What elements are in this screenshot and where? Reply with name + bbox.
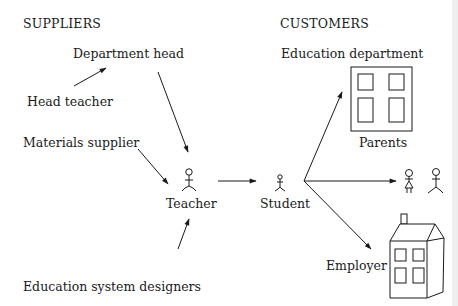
customer-employer: Employer — [326, 260, 387, 273]
arrow-materials-to-teacher — [138, 149, 168, 184]
employer-house-icon — [390, 214, 444, 298]
arrow-student-to-employer — [304, 181, 371, 249]
arrow-student-to-educationdept — [304, 92, 342, 181]
diagram-canvas: SUPPLIERS CUSTOMERS Department head Head… — [0, 0, 458, 306]
arrow-headteacher-to-depthead — [74, 68, 106, 86]
supplier-education-system-designers: Education system designers — [23, 281, 201, 294]
arrow-designers-to-teacher — [178, 219, 189, 249]
supplier-materials-supplier: Materials supplier — [23, 137, 139, 150]
student-label: Student — [260, 198, 310, 211]
teacher-label: Teacher — [166, 198, 217, 211]
supplier-head-teacher: Head teacher — [27, 96, 113, 109]
teacher-figure-icon — [182, 169, 196, 191]
supplier-department-head: Department head — [73, 48, 184, 61]
parents-figures-icon — [405, 169, 443, 194]
suppliers-heading: SUPPLIERS — [23, 18, 101, 31]
customer-education-department: Education department — [281, 48, 423, 61]
customers-heading: CUSTOMERS — [280, 18, 369, 31]
customer-parents: Parents — [359, 137, 407, 150]
education-department-building-icon — [351, 67, 412, 131]
arrow-depthead-to-teacher — [158, 72, 188, 152]
page-edge-shadow — [452, 0, 458, 306]
student-figure-icon — [275, 175, 285, 191]
